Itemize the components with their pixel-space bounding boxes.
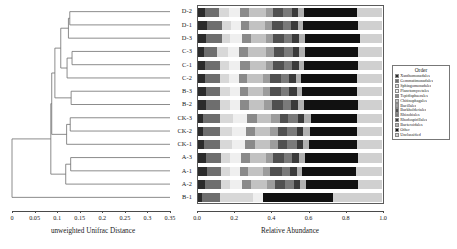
bar-segment	[302, 87, 356, 96]
bar-segment	[242, 180, 251, 189]
legend-label: Burkholderiales	[400, 108, 426, 112]
bar-segment	[205, 8, 219, 17]
bar-segment	[220, 87, 230, 96]
bar-segment	[274, 47, 284, 56]
legend-label: Chitinophagales	[400, 99, 427, 103]
bar-segment	[255, 127, 269, 136]
bar-segment	[283, 100, 292, 109]
bar-segment	[292, 153, 299, 162]
bar-segment	[206, 153, 221, 162]
bar-segment	[291, 100, 298, 109]
bar-row-a-2	[198, 180, 383, 189]
bar-segment	[358, 100, 382, 109]
legend-swatch-icon	[395, 118, 399, 122]
sample-label-ck-2: CK-2	[166, 128, 192, 134]
bar-segment	[250, 61, 266, 70]
bar-segment	[204, 47, 217, 56]
bar-segment	[333, 193, 383, 202]
dendrogram-tick	[170, 211, 171, 213]
legend-item[interactable]: Planctomycetales	[395, 89, 448, 94]
bar-segment	[247, 74, 263, 83]
bar-segment	[357, 114, 382, 123]
legend-item[interactable]: Bacteroidales	[395, 123, 448, 128]
legend-item[interactable]: Unclassified	[395, 133, 448, 138]
legend: Order XanthomonadalesGemmatimonadalesSph…	[392, 65, 450, 140]
legend-swatch-icon	[395, 108, 399, 112]
abundance-tick-label: 0.6	[296, 215, 322, 221]
bar-segment	[206, 87, 219, 96]
abundance-tick-label: 0.8	[333, 215, 359, 221]
bar-segment	[264, 100, 271, 109]
bar-segment	[242, 34, 251, 43]
abundance-tick-label: 0.4	[258, 215, 284, 221]
bar-segment	[247, 114, 257, 123]
bar-segment	[249, 8, 266, 17]
dendrogram-branches	[12, 12, 170, 198]
bar-segment	[283, 8, 291, 17]
bar-segment	[358, 153, 382, 162]
legend-label: Gemmatimonadales	[400, 79, 433, 83]
bar-row-a-1	[198, 167, 383, 176]
legend-item[interactable]: Burkholderiales	[395, 108, 448, 113]
bar-segment	[305, 34, 361, 43]
bar-segment	[229, 61, 240, 70]
bar-segment	[232, 140, 245, 149]
sample-label-b-3: B-3	[166, 88, 192, 94]
bar-segment	[231, 21, 241, 30]
bar-row-b-3	[198, 87, 383, 96]
bar-segment	[273, 34, 284, 43]
bar-row-c-3	[198, 47, 383, 56]
legend-item[interactable]: Xanthomonadales	[395, 74, 448, 79]
legend-swatch-icon	[395, 74, 399, 78]
bar-segment	[230, 34, 241, 43]
bar-segment	[198, 167, 207, 176]
bar-segment	[292, 61, 299, 70]
legend-item[interactable]: Sphingomonadales	[395, 84, 448, 89]
legend-item[interactable]: Tepidisphaerales	[395, 93, 448, 98]
abundance-axis-title: Relative Abundance	[215, 228, 365, 235]
legend-label: Bacillales	[400, 104, 416, 108]
bar-segment	[357, 74, 383, 83]
bar-segment	[302, 167, 356, 176]
legend-item[interactable]: Other	[395, 128, 448, 133]
dendrogram-tick	[35, 211, 36, 213]
dendrogram-tick	[125, 211, 126, 213]
bar-segment	[198, 180, 206, 189]
dendrogram-tick	[147, 211, 148, 213]
bar-segment	[239, 74, 248, 83]
legend-swatch-icon	[395, 84, 399, 88]
bar-row-a-3	[198, 153, 383, 162]
sample-label-c-1: C-1	[166, 62, 192, 68]
legend-item[interactable]: Rhodospirillales	[395, 118, 448, 123]
legend-item[interactable]: Bacillales	[395, 103, 448, 108]
dendrogram-axis-title: unweighted Unifrac Distance	[18, 228, 168, 235]
sample-label-c-2: C-2	[166, 75, 192, 81]
bar-segment	[203, 127, 219, 136]
bar-segment	[263, 87, 270, 96]
legend-item[interactable]: Rhizobiales	[395, 113, 448, 118]
legend-label: Planctomycetales	[400, 89, 429, 93]
bar-segment	[281, 74, 289, 83]
abundance-tick	[309, 211, 310, 213]
bar-segment	[265, 21, 272, 30]
bar-segment	[220, 114, 233, 123]
sample-label-b-1: B-1	[166, 194, 192, 200]
dendrogram-tick	[57, 211, 58, 213]
legend-label: Rhodospirillales	[400, 118, 427, 122]
bar-segment	[230, 167, 240, 176]
legend-label: Xanthomonadales	[400, 74, 430, 78]
legend-item[interactable]: Gemmatimonadales	[395, 79, 448, 84]
bar-segment	[219, 8, 229, 17]
bar-segment	[306, 180, 358, 189]
bar-segment	[248, 47, 266, 56]
bar-segment	[290, 167, 297, 176]
bar-row-d-1	[198, 21, 383, 30]
bar-segment	[288, 114, 298, 123]
bar-row-d-2	[198, 8, 383, 17]
bar-segment	[271, 114, 280, 123]
bar-segment	[245, 140, 255, 149]
legend-item[interactable]: Chitinophagales	[395, 98, 448, 103]
bar-segment	[198, 21, 207, 30]
bar-segment	[278, 140, 287, 149]
bar-segment	[304, 100, 359, 109]
